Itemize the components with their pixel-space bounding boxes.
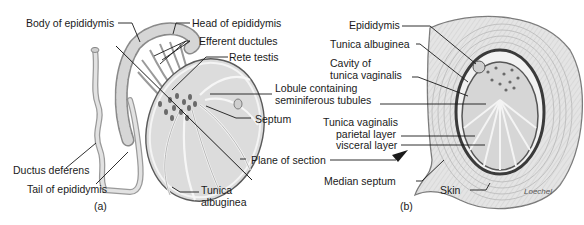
label-cavity-line1: Cavity of xyxy=(330,57,371,69)
label-ductus-deferens: Ductus deferens xyxy=(13,164,89,176)
label-plane-of-section: Plane of section xyxy=(251,154,326,166)
label-head-of-epididymis: Head of epididymis xyxy=(192,17,281,29)
artist-signature: Loechel xyxy=(524,187,552,196)
label-lobule-line1: Lobule containing xyxy=(275,82,357,94)
label-rete-testis: Rete testis xyxy=(229,51,279,63)
label-visceral-layer: visceral layer xyxy=(336,139,397,151)
label-cavity-line2: tunica vaginalis xyxy=(330,69,402,81)
label-tunica-vaginalis: Tunica vaginalis xyxy=(323,116,398,128)
caption-panel-b: (b) xyxy=(400,200,413,212)
label-body-of-epididymis: Body of epididymis xyxy=(26,17,114,29)
label-tunica-albuginea-b: Tunica albuginea xyxy=(330,38,410,50)
label-tunica-albuginea-a1: Tunica xyxy=(201,184,232,196)
label-tail-of-epididymis: Tail of epididymis xyxy=(27,183,107,195)
label-efferent-ductules: Efferent ductules xyxy=(199,35,278,47)
caption-panel-a: (a) xyxy=(94,200,107,212)
label-skin: Skin xyxy=(440,184,460,196)
label-epididymis: Epididymis xyxy=(349,19,400,31)
label-lobule-line2: seminiferous tubules xyxy=(275,94,371,106)
label-median-septum: Median septum xyxy=(324,175,396,187)
label-septum: Septum xyxy=(255,113,291,125)
label-tunica-albuginea-a2: albuginea xyxy=(201,196,247,208)
testis-anatomy-figure: Body of epididymis Head of epididymis Ef… xyxy=(0,0,584,225)
